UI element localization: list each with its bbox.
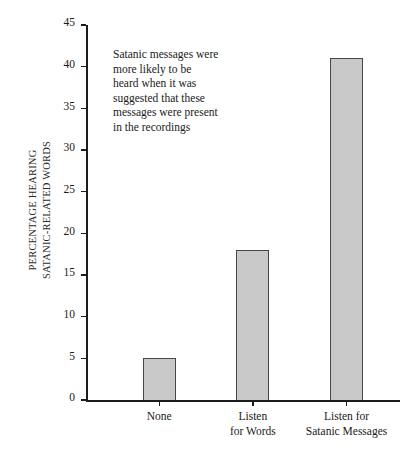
x-axis-tick bbox=[346, 400, 347, 406]
y-axis-tick-label: 25 bbox=[64, 183, 76, 195]
y-axis-tick: 40 bbox=[81, 66, 86, 67]
y-axis-tick: 10 bbox=[81, 316, 86, 317]
bar bbox=[236, 250, 269, 400]
y-axis-tick-label: 10 bbox=[64, 308, 76, 320]
annotation-line-1: Satanic messages were bbox=[113, 47, 273, 62]
annotation-line-2: more likely to be bbox=[113, 62, 273, 77]
y-axis-tick: 30 bbox=[81, 149, 86, 150]
y-axis-tick: 15 bbox=[81, 274, 86, 275]
x-axis-line bbox=[86, 400, 400, 402]
y-axis-tick-label: 45 bbox=[64, 16, 76, 28]
bar bbox=[330, 58, 363, 400]
y-axis-tick: 20 bbox=[81, 233, 86, 234]
y-axis-tick: 5 bbox=[81, 358, 86, 359]
y-axis-tick-label: 15 bbox=[64, 266, 76, 278]
y-axis-tick: 45 bbox=[81, 24, 86, 25]
x-axis-tick bbox=[252, 400, 253, 406]
annotation-line-4: suggested that these bbox=[113, 91, 273, 106]
bar-chart: PERCENTAGE HEARING SATANIC-RELATED WORDS… bbox=[0, 0, 414, 453]
y-axis-line bbox=[86, 25, 88, 400]
annotation-line-6: in the recordings bbox=[113, 120, 273, 135]
y-axis-tick-label: 5 bbox=[69, 350, 75, 362]
y-axis-tick: 35 bbox=[81, 108, 86, 109]
y-axis-tick-label: 0 bbox=[69, 391, 75, 403]
y-axis-tick: 25 bbox=[81, 191, 86, 192]
x-axis-category-label-line: Listen for bbox=[277, 409, 414, 424]
annotation-line-5: messages were present bbox=[113, 105, 273, 120]
x-axis-tick bbox=[159, 400, 160, 406]
x-axis-category-label: Listen forSatanic Messages bbox=[277, 409, 414, 439]
y-axis-tick-label: 35 bbox=[64, 100, 76, 112]
y-axis-tick-label: 20 bbox=[64, 225, 76, 237]
annotation-line-3: heard when it was bbox=[113, 76, 273, 91]
y-axis-tick-label: 40 bbox=[64, 58, 76, 70]
y-axis-label-text: PERCENTAGE HEARING SATANIC-RELATED WORDS bbox=[26, 60, 54, 360]
y-axis-label-line-1: PERCENTAGE HEARING bbox=[26, 60, 40, 360]
y-axis-tick-label: 30 bbox=[64, 141, 76, 153]
y-axis-tick: 0 bbox=[81, 399, 86, 400]
bar bbox=[143, 358, 176, 400]
x-axis-category-label-line: Satanic Messages bbox=[277, 424, 414, 439]
y-axis-label-line-2: SATANIC-RELATED WORDS bbox=[40, 60, 54, 360]
chart-annotation: Satanic messages were more likely to be … bbox=[113, 47, 273, 135]
y-axis-label: PERCENTAGE HEARING SATANIC-RELATED WORDS bbox=[0, 0, 58, 400]
